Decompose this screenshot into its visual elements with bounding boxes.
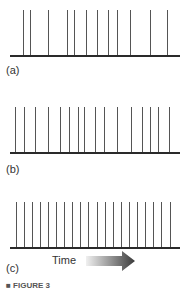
spike-line xyxy=(80,202,81,247)
spike-line xyxy=(72,202,73,247)
spike-line xyxy=(88,202,89,247)
spike-line xyxy=(64,202,65,247)
spike-line xyxy=(16,202,17,247)
spike-line xyxy=(121,202,122,247)
spike-line xyxy=(32,202,33,247)
spike-line xyxy=(161,202,162,247)
baseline-c xyxy=(10,247,180,249)
spike-line xyxy=(153,202,154,247)
spike-line xyxy=(48,202,49,247)
spike-line xyxy=(40,202,41,247)
spike-line xyxy=(97,202,98,247)
spike-line xyxy=(129,202,130,247)
panel-c: Time (c) xyxy=(0,0,188,288)
figure-caption: ■ FIGURE 3 xyxy=(6,281,50,288)
spike-line xyxy=(170,202,171,247)
spike-line xyxy=(113,202,114,247)
time-axis-label: Time xyxy=(52,254,76,266)
arrow-right-icon xyxy=(86,251,136,271)
spike-line xyxy=(24,202,25,247)
panel-label-c: (c) xyxy=(6,262,19,274)
spike-line xyxy=(145,202,146,247)
spike-line xyxy=(137,202,138,247)
spike-line xyxy=(56,202,57,247)
spike-line xyxy=(105,202,106,247)
